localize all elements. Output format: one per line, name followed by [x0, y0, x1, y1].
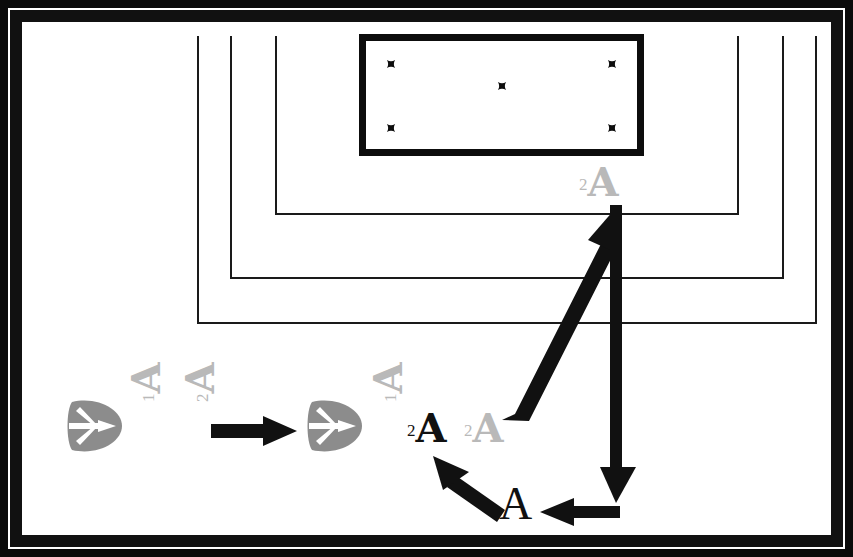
diagram-canvas: 2A 1A 2A	[22, 22, 831, 535]
result-label-1-superscript: 1	[381, 394, 400, 403]
maltese-cross-icon	[378, 115, 404, 141]
vertical-down-arrow	[600, 205, 636, 505]
short-diagonal-arrow	[417, 442, 507, 524]
transform-arrow	[211, 414, 297, 448]
picture-frame: 2A 1A 2A	[0, 0, 853, 557]
maltese-cross-icon	[489, 73, 515, 99]
source-label-1: 1A	[126, 362, 166, 402]
result-label-1-letter: A	[364, 362, 411, 393]
source-label-2-superscript: 2	[193, 394, 212, 403]
maltese-cross-icon	[378, 51, 404, 77]
source-label-1-superscript: 1	[139, 394, 158, 403]
maltese-cross-icon	[599, 51, 625, 77]
crest-label-superscript: 2	[579, 175, 588, 194]
leaf-star-mark-left	[64, 398, 124, 454]
source-label-1-letter: A	[122, 362, 169, 393]
result-label-2-superscript: 2	[407, 421, 416, 440]
maltese-cross-icon	[599, 115, 625, 141]
crest-label: 2A	[579, 162, 619, 202]
leaf-star-mark-right	[304, 398, 364, 454]
crest-box	[359, 34, 644, 156]
result-label-1: 1A	[368, 362, 408, 402]
horizontal-left-arrow	[540, 496, 620, 528]
source-label-2-letter: A	[176, 362, 223, 393]
source-label-2: 2A	[180, 362, 220, 402]
crest-label-letter: A	[588, 158, 619, 205]
result-label-3-superscript: 2	[464, 421, 473, 440]
